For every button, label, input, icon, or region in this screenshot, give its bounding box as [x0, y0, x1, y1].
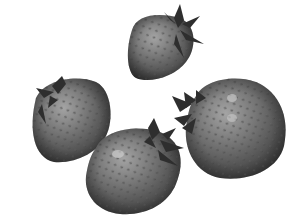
strawberries-illustration	[0, 0, 306, 224]
highlight	[112, 150, 124, 158]
highlight	[227, 114, 237, 122]
strawberries-image	[0, 0, 306, 224]
highlight	[227, 94, 237, 102]
strawberry-top	[128, 4, 204, 80]
strawberry-right	[172, 78, 286, 178]
